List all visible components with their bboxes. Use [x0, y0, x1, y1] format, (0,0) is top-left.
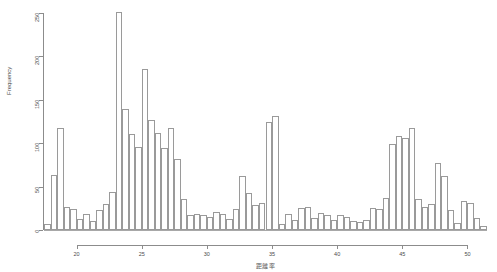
histogram-bar [285, 214, 292, 230]
histogram-bar [148, 120, 155, 230]
histogram-bar [135, 147, 142, 230]
plot-area [44, 13, 487, 230]
histogram-bar [448, 210, 455, 230]
histogram-bar [370, 208, 377, 230]
histogram-bar [318, 213, 325, 230]
histogram-bar [194, 214, 201, 230]
x-tick-label: 40 [334, 252, 340, 258]
x-tick-label: 30 [204, 252, 210, 258]
histogram-bar [213, 212, 220, 230]
histogram-bar [350, 221, 357, 230]
histogram-bar [331, 220, 338, 230]
y-tick-label: 100 [35, 143, 41, 152]
histogram-bar [207, 217, 214, 230]
histogram-bar [467, 203, 474, 230]
histogram-bar [357, 222, 364, 230]
histogram-bar [239, 176, 246, 230]
histogram-bar [142, 69, 149, 230]
baseline [44, 230, 487, 231]
histogram-bar [200, 215, 207, 230]
histogram-bar [246, 193, 253, 230]
histogram-bar [220, 214, 227, 230]
histogram-bar [64, 207, 71, 230]
histogram-bar [161, 148, 168, 230]
x-axis-label: 距離率 [256, 261, 275, 270]
histogram-bar [51, 175, 58, 230]
histogram-bars [44, 13, 487, 230]
histogram-bar [83, 214, 90, 230]
histogram-bar [272, 116, 279, 230]
histogram-bar [103, 204, 110, 230]
x-tick-label: 50 [464, 252, 470, 258]
histogram-bar [259, 203, 266, 230]
x-tick-label: 20 [74, 252, 80, 258]
histogram-bar [116, 12, 123, 230]
histogram-bar [77, 219, 84, 230]
histogram-bar [441, 176, 448, 230]
histogram-bar [474, 218, 481, 230]
histogram-bar [96, 210, 103, 230]
histogram-bar [109, 192, 116, 230]
y-tick-label: 150 [35, 100, 41, 109]
histogram-bar [122, 109, 129, 230]
histogram-bar [409, 128, 416, 230]
histogram-bar [337, 215, 344, 230]
histogram-bar [129, 134, 136, 230]
histogram-bar [383, 198, 390, 230]
histogram-bar [181, 199, 188, 230]
histogram-bar [363, 220, 370, 230]
histogram-bar [344, 217, 351, 230]
y-tick-label: 50 [35, 186, 41, 192]
histogram-bar [402, 138, 409, 230]
histogram-bar [422, 207, 429, 230]
x-tick-label: 35 [269, 252, 275, 258]
y-axis-label: Frequency [6, 67, 12, 95]
x-tick [402, 245, 403, 249]
histogram-figure: 050100150200250 Frequency 20253035404550… [0, 0, 497, 272]
x-tick-label: 45 [399, 252, 405, 258]
histogram-bar [389, 144, 396, 230]
x-tick [77, 245, 78, 249]
histogram-bar [396, 136, 403, 230]
x-tick [467, 245, 468, 249]
histogram-bar [90, 221, 97, 230]
histogram-bar [415, 199, 422, 230]
histogram-bar [311, 218, 318, 230]
histogram-bar [428, 204, 435, 230]
histogram-bar [252, 205, 259, 230]
y-tick-label: 250 [35, 13, 41, 22]
histogram-bar [174, 159, 181, 230]
histogram-bar [187, 215, 194, 230]
histogram-bar [454, 223, 461, 230]
histogram-bar [305, 207, 312, 230]
histogram-bar [292, 220, 299, 230]
histogram-bar [70, 209, 77, 230]
y-tick-label: 200 [35, 56, 41, 65]
x-tick [142, 245, 143, 249]
x-tick [337, 245, 338, 249]
histogram-bar [168, 128, 175, 230]
x-tick [272, 245, 273, 249]
histogram-bar [226, 219, 233, 230]
histogram-bar [57, 128, 64, 230]
histogram-bar [233, 209, 240, 230]
x-tick [207, 245, 208, 249]
histogram-bar [435, 163, 442, 230]
histogram-bar [324, 215, 331, 230]
x-tick-label: 25 [139, 252, 145, 258]
y-tick-label: 0 [35, 230, 41, 233]
histogram-bar [461, 201, 468, 230]
histogram-bar [298, 208, 305, 230]
